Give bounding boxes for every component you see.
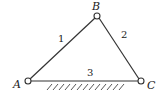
linkage-diagram: A B C 1 2 3 bbox=[0, 0, 164, 101]
link-1 bbox=[30, 18, 95, 79]
joint-c bbox=[138, 78, 144, 84]
ground-hatch bbox=[47, 84, 124, 90]
label-link-2: 2 bbox=[121, 29, 127, 40]
joint-a bbox=[25, 78, 31, 84]
label-link-1: 1 bbox=[58, 33, 64, 44]
link-2 bbox=[99, 18, 139, 79]
joint-b bbox=[94, 13, 100, 19]
label-joint-a: A bbox=[12, 78, 21, 91]
label-joint-c: C bbox=[147, 79, 156, 92]
label-link-3: 3 bbox=[87, 67, 93, 78]
label-joint-b: B bbox=[91, 0, 100, 13]
